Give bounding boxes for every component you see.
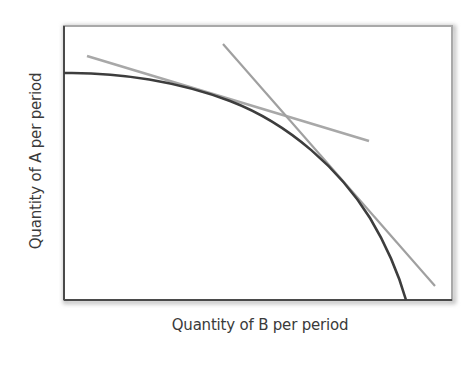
y-axis-label: Quantity of A per period: [27, 73, 45, 250]
x-axis-label: Quantity of B per period: [0, 316, 474, 334]
chart-canvas: [0, 0, 474, 365]
